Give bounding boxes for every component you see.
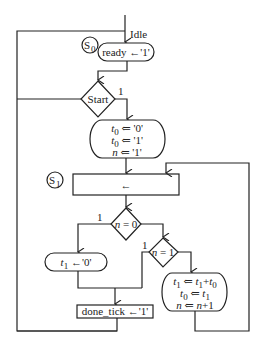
- svg-text:n = 0: n = 0: [115, 218, 138, 230]
- done-to-idle-line: [17, 318, 117, 331]
- n0-false-arrow: [141, 224, 163, 237]
- n0-decision: n = 0: [111, 208, 141, 240]
- n1-false-arrow: [178, 252, 191, 272]
- svg-text:S: S: [49, 174, 55, 186]
- svg-text:n = 1: n = 1: [152, 246, 175, 258]
- s1-box: ←: [73, 174, 179, 195]
- svg-text:1: 1: [56, 179, 61, 189]
- state-s1: S 1: [47, 172, 63, 189]
- t1-assign-box: t1 ←'0': [45, 253, 107, 271]
- svg-text:done_tick ←'1': done_tick ←'1': [82, 305, 149, 317]
- svg-text:S: S: [84, 39, 90, 51]
- n1-true-line: [142, 252, 149, 288]
- idle-label: Idle: [130, 28, 147, 40]
- svg-text:ready ←'1': ready ←'1': [102, 46, 150, 58]
- n0-true-arrow: [78, 224, 111, 252]
- svg-text:Start: Start: [88, 93, 109, 105]
- state-s0: S 0: [82, 37, 98, 54]
- svg-text:0: 0: [91, 44, 96, 54]
- ready-to-start-arrow: [98, 61, 127, 80]
- n0-branch-label: 1: [97, 211, 103, 223]
- update-box: t1 ⇐ t1+t0 t0 ⇐ t1 n ⇐ n+1: [162, 273, 227, 311]
- t1-merge-line: [78, 271, 142, 288]
- asm-chart: Idle S 0 ready ←'1' Start 1 t0 ⇐ '0' t0 …: [0, 0, 264, 347]
- start-branch-label: 1: [118, 85, 124, 97]
- start-decision: Start: [81, 81, 115, 117]
- n1-decision: n = 1: [149, 238, 178, 267]
- ready-box: ready ←'1': [98, 43, 154, 61]
- svg-text:n ⇐ n+1: n ⇐ n+1: [176, 299, 213, 311]
- init-box: t0 ⇐ '0' t0 ⇐ '1' n ⇐ '1': [90, 120, 165, 158]
- done-tick-box: done_tick ←'1': [77, 305, 153, 318]
- svg-text:←: ←: [121, 179, 132, 191]
- svg-text:n ⇐ '1': n ⇐ '1': [112, 146, 142, 158]
- n1-branch-label: 1: [142, 239, 148, 251]
- start-true-arrow: [115, 99, 127, 119]
